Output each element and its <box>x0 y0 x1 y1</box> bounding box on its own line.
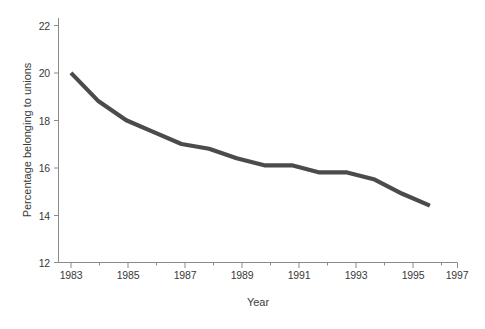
x-tick-label-1995: 1995 <box>402 269 425 281</box>
x-tick-label-1989: 1989 <box>231 269 254 281</box>
x-tick-label-1991: 1991 <box>288 269 311 281</box>
y-tick-label-22: 22 <box>39 20 51 32</box>
line-chart: 22 20 18 16 14 12 1983 1985 1987 1989 <box>0 0 485 329</box>
x-tick-label-1997: 1997 <box>446 269 469 281</box>
data-line-union-percentage <box>71 73 430 206</box>
y-axis-ticks <box>54 26 59 263</box>
y-tick-label-18: 18 <box>39 115 51 127</box>
y-tick-label-20: 20 <box>39 67 51 79</box>
chart-figure: 22 20 18 16 14 12 1983 1985 1987 1989 <box>0 0 485 329</box>
y-tick-label-16: 16 <box>39 162 51 174</box>
y-tick-label-14: 14 <box>39 210 51 222</box>
x-tick-label-1985: 1985 <box>117 269 140 281</box>
y-tick-label-12: 12 <box>39 257 51 269</box>
x-axis-ticks <box>71 263 458 269</box>
x-axis-title: Year <box>247 296 270 308</box>
x-tick-label-1983: 1983 <box>60 269 83 281</box>
x-tick-label-1993: 1993 <box>345 269 368 281</box>
x-tick-label-1987: 1987 <box>174 269 197 281</box>
y-axis-title: Percentage belonging to unions <box>21 62 33 217</box>
